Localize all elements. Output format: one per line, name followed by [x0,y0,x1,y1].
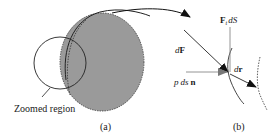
displaced-boundary-dashed [257,57,267,110]
zoomed-region-label: Zoomed region [14,103,75,114]
label-Ft-dS: FtdS [220,15,238,26]
panel-b: FtdS dF pdsn dr (b) [173,15,267,133]
diagram: Zoomed region (a) FtdS dF pdsn dr (b) [0,0,279,135]
dr-arrow [230,74,256,87]
caption-b: (b) [233,121,245,133]
label-p-ds-n: pdsn [173,77,196,87]
label-dr: dr [234,64,243,74]
dF-arrow [184,30,228,72]
panel-a: Zoomed region (a) [14,9,190,133]
caption-a: (a) [100,121,111,133]
shaded-body [60,13,144,111]
label-dF: dF [175,45,186,55]
zoomed-region-leader [42,88,50,97]
